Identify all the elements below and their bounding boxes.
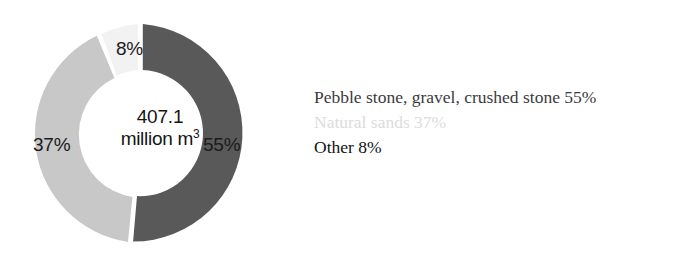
slice-value-label-other: 8% [116, 38, 143, 60]
donut-chart-plot-area: 55% 37% 8% 407.1 million m3 [20, 10, 270, 260]
legend-item-other[interactable]: Other 8% [314, 135, 674, 160]
legend-item-pebble-stone[interactable]: Pebble stone, gravel, crushed stone 55% [314, 85, 674, 110]
slice-value-label-natural-sands: 37% [33, 134, 70, 156]
donut-slice-pebble-stone[interactable] [133, 24, 242, 242]
chart-legend: Pebble stone, gravel, crushed stone 55% … [314, 85, 674, 160]
slice-value-label-pebble-stone: 55% [203, 134, 240, 156]
legend-item-natural-sands[interactable]: Natural sands 37% [314, 110, 674, 135]
donut-chart-figure: 55% 37% 8% 407.1 million m3 Pebble stone… [0, 0, 690, 265]
